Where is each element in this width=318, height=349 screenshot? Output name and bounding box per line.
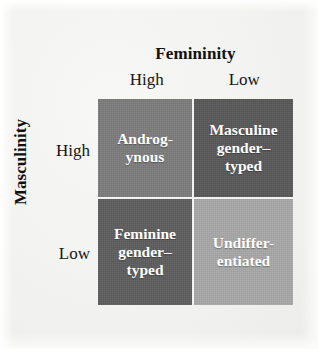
- column-axis-title: Femininity: [98, 44, 293, 64]
- quadrant-undifferentiated-label: Undiffer- entiated: [210, 234, 277, 270]
- row-axis-levels: High Low: [50, 99, 94, 305]
- column-level-low: Low: [196, 70, 294, 90]
- quadrant-androgynous-label: Androg- ynous: [114, 130, 176, 166]
- quadrant-undifferentiated: Undiffer- entiated: [194, 199, 293, 305]
- quadrant-masculine-gender-typed-label: Masculine gender– typed: [206, 121, 280, 175]
- quadrant-grid: Androg- ynous Masculine gender– typed Fe…: [98, 99, 293, 305]
- row-level-high: High: [50, 99, 94, 202]
- gender-role-matrix-figure: Femininity High Low Masculinity High Low…: [0, 0, 318, 349]
- quadrant-androgynous: Androg- ynous: [98, 99, 194, 199]
- row-level-low: Low: [50, 202, 94, 305]
- quadrant-feminine-gender-typed-label: Feminine gender– typed: [111, 225, 179, 279]
- quadrant-feminine-gender-typed: Feminine gender– typed: [98, 199, 194, 305]
- quadrant-masculine-gender-typed: Masculine gender– typed: [194, 99, 293, 199]
- column-axis-levels: High Low: [98, 70, 293, 90]
- row-axis-title: Masculinity: [11, 107, 31, 217]
- column-level-high: High: [98, 70, 196, 90]
